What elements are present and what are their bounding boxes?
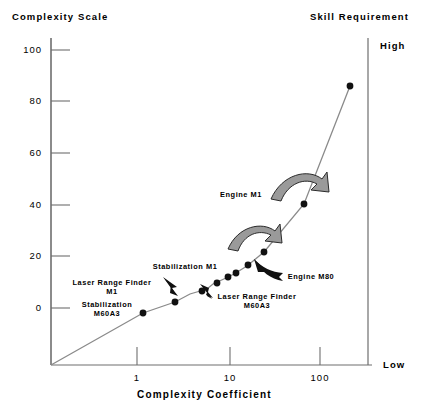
- y-axis-ticks: [51, 50, 70, 308]
- data-point: [301, 201, 308, 208]
- curved-arrow-engine-m1-lower: [228, 224, 282, 251]
- annotation-stabilization-m60a3: Stabilization M60A3: [67, 300, 147, 318]
- curved-arrow-engine-m1: [271, 172, 329, 201]
- data-point: [214, 280, 221, 287]
- data-line: [51, 86, 350, 365]
- plot-area: [0, 0, 433, 411]
- data-point: [233, 270, 240, 277]
- data-point: [172, 299, 179, 306]
- annotation-engine-m80: Engine M80: [279, 272, 343, 281]
- data-point: [261, 249, 268, 256]
- annotation-laser-range-finder-m60a3: Laser Range Finder M60A3: [206, 292, 308, 310]
- data-point: [225, 274, 232, 281]
- chart-figure: Complexity Scale Skill Requirement High …: [0, 0, 433, 411]
- data-point: [347, 83, 354, 90]
- data-markers: [140, 83, 354, 317]
- curved-arrows: [228, 172, 329, 251]
- annotation-stabilization-m1: Stabilization M1: [141, 262, 229, 271]
- x-axis-ticks: [137, 347, 320, 365]
- annotation-engine-m1: Engine M1: [211, 190, 271, 199]
- annotation-laser-range-finder-m1: Laser Range Finder M1: [62, 278, 162, 296]
- data-point: [245, 262, 252, 269]
